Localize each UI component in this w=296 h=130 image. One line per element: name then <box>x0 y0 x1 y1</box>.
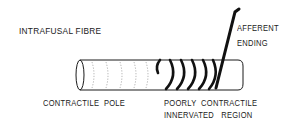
poorly-contractile-label-line1: POORLY CONTRACTILE <box>164 99 257 109</box>
afferent-ending-label-line2: ENDING <box>237 39 268 49</box>
afferent-ending-label-line1: AFFERENT <box>237 24 279 34</box>
contractile-pole-label: CONTRACTILE POLE <box>43 99 125 109</box>
innervated-region-label-line2: INNERVATED REGION <box>164 111 253 121</box>
contractile-pole-striations <box>92 62 148 88</box>
intrafusal-fibre-label: INTRAFUSAL FIBRE <box>19 27 101 37</box>
afferent-nerve-fibre <box>216 9 239 88</box>
annulospiral-coil <box>157 60 216 89</box>
